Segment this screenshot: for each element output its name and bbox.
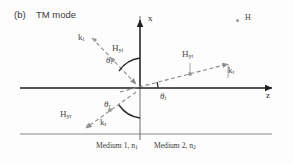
transmitted-h-sub: yt — [189, 52, 194, 59]
figure-panel: (b) TM mode H x z ki Hyi Hyr kr Hyt kt θ… — [0, 0, 293, 164]
transmitted-angle-label: θt — [160, 92, 166, 101]
transmitted-wavevector-label: kt — [228, 66, 234, 75]
incident-field-label: Hyi — [112, 44, 123, 53]
incident-h-sub: yi — [119, 46, 124, 53]
reflected-wavevector-label: kr — [100, 118, 107, 127]
incident-wavevector-label: ki — [78, 33, 84, 42]
reflected-field-label: Hyr — [60, 110, 72, 119]
reflected-k-dot — [86, 124, 89, 127]
medium-1-sub: 1 — [135, 144, 138, 150]
medium-1-caption: Medium 1, n1 — [96, 142, 138, 151]
incident-theta-sub: i — [110, 59, 112, 65]
legend-label: H — [245, 14, 251, 22]
transmitted-angle-arc — [157, 82, 158, 88]
transmitted-theta-sub: t — [164, 95, 166, 101]
z-axis-label: z — [266, 91, 270, 100]
medium-2-sub: 2 — [193, 144, 196, 150]
x-axis-label: x — [148, 14, 153, 23]
reflected-h-sub: yr — [67, 112, 72, 119]
incident-k-dot — [93, 38, 96, 41]
medium-2-caption: Medium 2, n2 — [154, 142, 196, 151]
incident-k-sub: i — [83, 35, 85, 42]
panel-label: (b) — [14, 10, 26, 20]
h-field-dot-marker — [236, 19, 239, 22]
diagram-canvas — [0, 0, 293, 164]
medium-1-text: Medium 1, n — [96, 141, 135, 150]
incident-angle-label: θi — [106, 56, 112, 65]
reflected-k-sub: r — [105, 120, 107, 127]
transmitted-k-sub: t — [233, 68, 235, 75]
medium-2-text: Medium 2, n — [154, 141, 193, 150]
figure-title: TM mode — [36, 10, 76, 20]
transmitted-field-label: Hyt — [182, 50, 193, 59]
reflected-theta-sub: r — [108, 103, 110, 109]
reflected-angle-label: θr — [104, 100, 111, 109]
reflected-angle-arc — [119, 105, 140, 118]
